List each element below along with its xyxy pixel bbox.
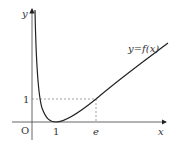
y-axis-label: y [21, 8, 28, 19]
tick-y-1-label: 1 [23, 94, 29, 105]
curve-label: y=f(x) [127, 43, 159, 54]
origin-label: O [21, 125, 29, 136]
tick-x-1-label: 1 [53, 126, 59, 137]
tick-x-e-label: e [93, 126, 99, 137]
function-curve [35, 10, 168, 122]
x-axis-label: x [158, 126, 164, 137]
function-graph: y x O 1 e 1 y=f(x) [0, 0, 178, 146]
